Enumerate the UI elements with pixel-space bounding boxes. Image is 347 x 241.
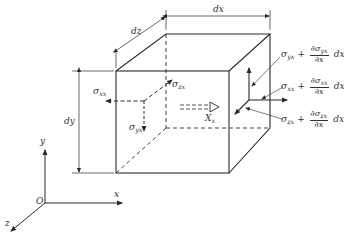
right-face-stresses bbox=[235, 68, 287, 114]
sigma-zx-label: σzx bbox=[172, 80, 185, 91]
sigma-xx-label: σxx bbox=[93, 87, 107, 98]
dy-label: dy bbox=[64, 117, 75, 126]
right-stress-yx-label: σyx + ∂σyx∂x dx bbox=[281, 45, 344, 64]
top-face bbox=[116, 34, 270, 71]
dx-label: dx bbox=[213, 5, 224, 14]
sigma-yx-label: σyx bbox=[129, 123, 143, 134]
right-stress-zx-label: σzx + ∂σzx∂x dx bbox=[281, 110, 344, 129]
body-force-arrow bbox=[180, 102, 219, 112]
right-face bbox=[229, 34, 270, 173]
leader-lines bbox=[246, 57, 283, 119]
z-axis-label: z bbox=[5, 219, 10, 228]
y-axis-label: y bbox=[40, 137, 45, 146]
stress-element-diagram: dx dz dy σxx σzx σyx Xx σyx + ∂σyx∂x dx … bbox=[0, 0, 347, 241]
origin-label: O bbox=[36, 197, 43, 206]
body-force-label: Xx bbox=[205, 114, 215, 125]
x-axis-label: x bbox=[114, 190, 119, 199]
right-stress-xx-label: σxx + ∂σxx∂x dx bbox=[281, 77, 344, 96]
coordinate-axes bbox=[11, 150, 122, 231]
dz-label: dz bbox=[131, 27, 142, 36]
